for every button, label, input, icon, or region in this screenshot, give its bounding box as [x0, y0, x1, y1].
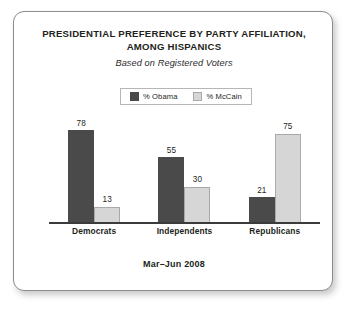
- chart-subtitle: Based on Registered Voters: [14, 58, 333, 68]
- bar-rect: [184, 187, 210, 222]
- x-axis-tick-labels: Democrats Independents Republicans: [49, 226, 320, 236]
- x-tick-label-independents: Independents: [139, 226, 229, 236]
- bar-mccain-independents: 30: [184, 112, 210, 222]
- bar-mccain-democrats: 13: [94, 112, 120, 222]
- legend-item-obama: % Obama: [130, 92, 177, 101]
- x-tick-label-republicans: Republicans: [230, 226, 320, 236]
- bar-value: 13: [103, 195, 112, 204]
- page-title: PRESIDENTIAL PREFERENCE BY PARTY AFFILIA…: [14, 28, 333, 53]
- bar-value: 78: [77, 119, 86, 128]
- legend-label-obama: % Obama: [143, 92, 177, 101]
- legend-swatch-obama-icon: [130, 92, 139, 101]
- chart-title-line1: PRESIDENTIAL PREFERENCE BY PARTY AFFILIA…: [42, 28, 306, 39]
- bar-group-republicans: 21 75: [230, 112, 320, 222]
- legend-label-mccain: % McCain: [206, 92, 241, 101]
- bar-rect: [94, 207, 120, 222]
- chart-title-line2: AMONG HISPANICS: [24, 41, 324, 54]
- x-tick-label-democrats: Democrats: [49, 226, 139, 236]
- bar-rect: [158, 157, 184, 222]
- bar-value: 21: [257, 186, 266, 195]
- bar-value: 30: [193, 175, 202, 184]
- chart-card: PRESIDENTIAL PREFERENCE BY PARTY AFFILIA…: [13, 11, 333, 291]
- chart-legend: % Obama % McCain: [120, 88, 252, 105]
- bar-rect: [68, 130, 94, 222]
- chart-header: PRESIDENTIAL PREFERENCE BY PARTY AFFILIA…: [14, 28, 333, 68]
- bar-groups: 78 13 55 30 21: [49, 112, 320, 222]
- bar-rect: [275, 134, 301, 222]
- x-axis-line: [49, 222, 320, 224]
- bar-obama-republicans: 21: [249, 112, 275, 222]
- bar-value: 75: [283, 122, 292, 131]
- chart-footer-period: Mar–Jun 2008: [14, 259, 333, 269]
- bar-obama-independents: 55: [158, 112, 184, 222]
- plot-area: 78 13 55 30 21: [14, 112, 333, 224]
- bar-obama-democrats: 78: [68, 112, 94, 222]
- bar-value: 55: [167, 146, 176, 155]
- bar-mccain-republicans: 75: [275, 112, 301, 222]
- bar-group-independents: 55 30: [139, 112, 229, 222]
- bar-group-democrats: 78 13: [49, 112, 139, 222]
- bar-rect: [249, 197, 275, 222]
- legend-swatch-mccain-icon: [193, 92, 202, 101]
- legend-item-mccain: % McCain: [193, 92, 241, 101]
